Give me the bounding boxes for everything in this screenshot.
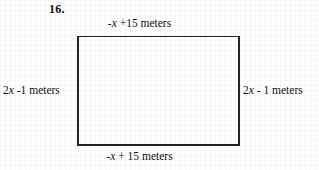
right-label-suffix: - 1 meters	[254, 84, 303, 96]
rectangle-top-edge-label: -x +15 meters	[0, 17, 319, 30]
top-label-suffix: +15 meters	[117, 17, 171, 29]
rectangle-left-edge-label: 2x -1 meters	[3, 84, 60, 97]
rectangle-bottom-edge-label: -x + 15 meters	[0, 150, 319, 163]
left-label-suffix: -1 meters	[14, 84, 60, 96]
rectangle-right-edge-label: 2x - 1 meters	[243, 84, 303, 97]
rectangle-figure	[77, 36, 240, 146]
bottom-label-suffix: + 15 meters	[115, 150, 172, 162]
problem-number: 16.	[49, 2, 65, 16]
worksheet-page: 16. -x +15 meters -x + 15 meters 2x -1 m…	[0, 0, 319, 170]
